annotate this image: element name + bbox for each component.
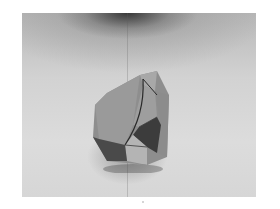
crystal-specimen	[85, 65, 185, 173]
scan-speck	[142, 201, 144, 203]
specimen-photo	[22, 13, 256, 197]
